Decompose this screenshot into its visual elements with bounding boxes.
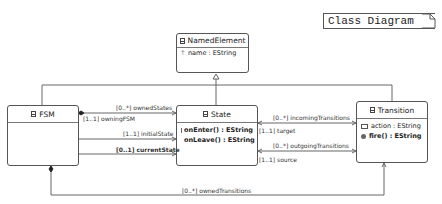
operation-row[interactable]: fire() : EString [357,131,427,141]
operation-row[interactable]: onLeave() : EString [177,135,257,145]
key-attribute-icon: ⍑ [181,49,185,57]
note-fold-icon [422,13,436,29]
attribute-icon [361,124,368,129]
label-outgoing-transitions: [0..*] outgoingTransitions [273,142,349,149]
class-icon [203,111,208,117]
class-transition[interactable]: Transition action : EString fire() : ESt… [356,101,428,163]
label-owned-transitions: [0..*] ownedTransitions [182,187,251,194]
attribute-row[interactable]: action : EString [357,121,427,131]
class-name: State [211,110,231,119]
operation-icon [361,134,366,139]
class-icon [180,38,185,44]
label-current-state: [0..1] currentState [116,146,180,153]
class-diagram-note: Class Diagram [323,13,435,29]
attribute-row[interactable]: ⍑name : EString [177,48,248,58]
class-named-element[interactable]: NamedElement ⍑name : EString [176,33,249,73]
label-source: [1..1] source [259,156,297,163]
label-target: [1..1] target [259,127,295,134]
class-icon [370,107,375,113]
class-icon [31,111,36,117]
label-initial-state: [1..1] initialState [123,130,173,137]
class-name: Transition [378,106,414,115]
label-owning-fsm: [1..1] owningFSM [83,115,135,122]
operation-row[interactable]: onEnter() : EString [177,125,257,135]
class-fsm[interactable]: FSM [7,105,79,166]
class-name: NamedElement [188,36,246,45]
label-owned-states: [0..*] ownedStates [116,104,172,111]
note-title: Class Diagram [328,15,414,27]
class-name: FSM [39,110,54,119]
label-incoming-transitions: [0..*] incomingTransitions [273,114,350,121]
class-state[interactable]: State onEnter() : EString onLeave() : ES… [176,105,258,166]
